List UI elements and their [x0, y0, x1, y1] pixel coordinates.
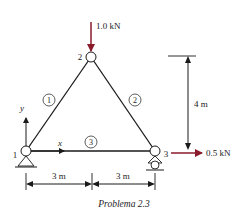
member-3-label: 3	[89, 138, 93, 147]
pin-support-node-1	[15, 156, 37, 167]
truss-diagram: 1 2 3 y x 1 2 3 1.0 kN 0.5 kN	[0, 0, 248, 213]
load-1-label: 1.0 kN	[96, 21, 121, 31]
height-dimension: 4 m	[168, 56, 208, 150]
member-2-label: 2	[133, 96, 137, 105]
y-axis-label: y	[19, 103, 24, 113]
x-axis-label: x	[57, 138, 62, 148]
span-left-label: 3 m	[52, 171, 66, 181]
axes: y x	[19, 103, 64, 151]
figure-caption: Problema 2.3	[97, 199, 150, 209]
load-2-label: 0.5 kN	[206, 148, 231, 158]
load-node-3: 0.5 kN	[171, 148, 231, 158]
member-1	[26, 57, 91, 151]
member-1-label: 1	[47, 96, 51, 105]
node-2	[86, 52, 96, 62]
node-1-label: 1	[13, 150, 18, 160]
node-2-label: 2	[78, 52, 83, 62]
load-node-2: 1.0 kN	[91, 21, 121, 51]
span-dimensions: 3 m 3 m	[26, 171, 155, 190]
height-dimension-label: 4 m	[194, 99, 208, 109]
span-right-label: 3 m	[116, 171, 130, 181]
node-1	[21, 146, 31, 156]
node-3	[150, 146, 160, 156]
roller-support-node-3	[146, 156, 164, 170]
node-3-label: 3	[164, 149, 169, 159]
member-2	[91, 57, 155, 151]
